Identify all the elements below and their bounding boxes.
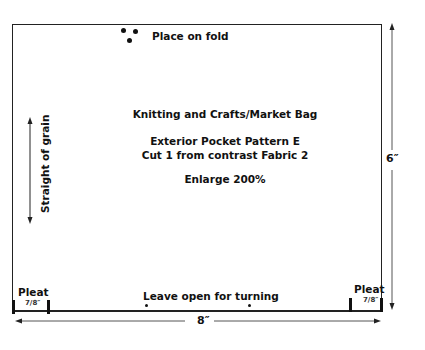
width-dimension-arrow-icon — [0, 0, 425, 350]
width-dimension-label: 8″ — [193, 314, 214, 327]
